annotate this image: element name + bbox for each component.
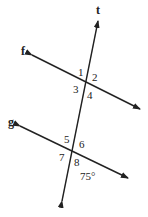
given-angle-75: 75° bbox=[80, 170, 95, 182]
label-g: g bbox=[8, 115, 14, 129]
angle-label-4: 4 bbox=[87, 89, 93, 101]
line-f bbox=[32, 55, 140, 109]
parallel-lines-diagram: t f g 1 2 3 4 5 6 7 8 75° bbox=[0, 0, 148, 217]
angle-label-3: 3 bbox=[73, 83, 79, 95]
line-g bbox=[20, 126, 128, 178]
angle-label-8: 8 bbox=[74, 156, 80, 168]
angle-label-6: 6 bbox=[79, 138, 85, 150]
label-t: t bbox=[96, 3, 100, 17]
angle-label-5: 5 bbox=[64, 133, 70, 145]
angle-label-2: 2 bbox=[92, 71, 98, 83]
angle-label-7: 7 bbox=[59, 151, 65, 163]
label-f: f bbox=[21, 44, 26, 58]
angle-label-1: 1 bbox=[78, 66, 84, 78]
